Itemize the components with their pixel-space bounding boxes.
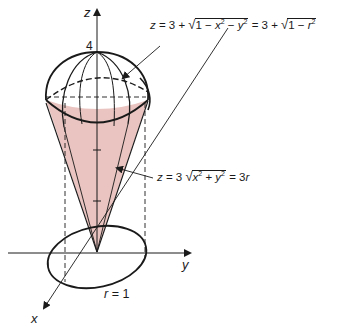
- base-radius-label: r = 1: [104, 288, 129, 301]
- sphere-equation: z = 3 + √1 − x2 − y2 = 3 + √1 − r2: [150, 18, 316, 32]
- z-tick-label-4: 4: [86, 40, 93, 52]
- y-axis-label: y: [182, 258, 189, 271]
- cone-sphere-diagram: [0, 0, 350, 333]
- z-axis-label: z: [84, 6, 91, 19]
- cone-equation: z = 3 √x2 + y2 = 3r: [157, 170, 249, 184]
- x-axis-label: x: [31, 312, 38, 325]
